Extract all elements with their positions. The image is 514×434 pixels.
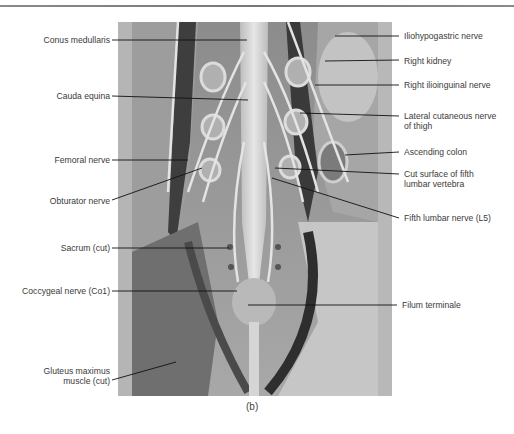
label-right-ilioinguinal-nerve: Right ilioinguinal nerve [404, 80, 490, 90]
label-cauda-equina: Cauda equina [56, 91, 110, 101]
label-gluteus-maximus-line1: Gluteus maximus [44, 366, 110, 376]
label-obturator-nerve: Obturator nerve [50, 196, 110, 206]
label-sacrum: Sacrum (cut) [61, 243, 110, 253]
figure-caption: (b) [246, 401, 258, 412]
top-rule [0, 5, 514, 7]
label-ascending-colon: Ascending colon [404, 147, 467, 157]
dissection-photo [118, 22, 392, 396]
label-filum-terminale: Filum terminale [402, 300, 461, 310]
label-cut-surface-line2: lumbar vertebra [404, 179, 464, 189]
label-cut-surface-line1: Cut surface of fifth [404, 169, 474, 179]
label-gluteus-maximus-line2: muscle (cut) [63, 376, 110, 386]
label-coccygeal-nerve: Coccygeal nerve (Co1) [22, 286, 110, 296]
label-femoral-nerve: Femoral nerve [55, 155, 110, 165]
label-lateral-cutaneous-line1: Lateral cutaneous nerve [404, 111, 496, 121]
label-iliohypogastric-nerve: Iliohypogastric nerve [404, 31, 483, 41]
label-right-kidney: Right kidney [404, 56, 451, 66]
label-fifth-lumbar-nerve: Fifth lumbar nerve (L5) [404, 213, 491, 223]
label-lateral-cutaneous-line2: of thigh [404, 121, 432, 131]
label-conus-medullaris: Conus medullaris [44, 35, 110, 45]
